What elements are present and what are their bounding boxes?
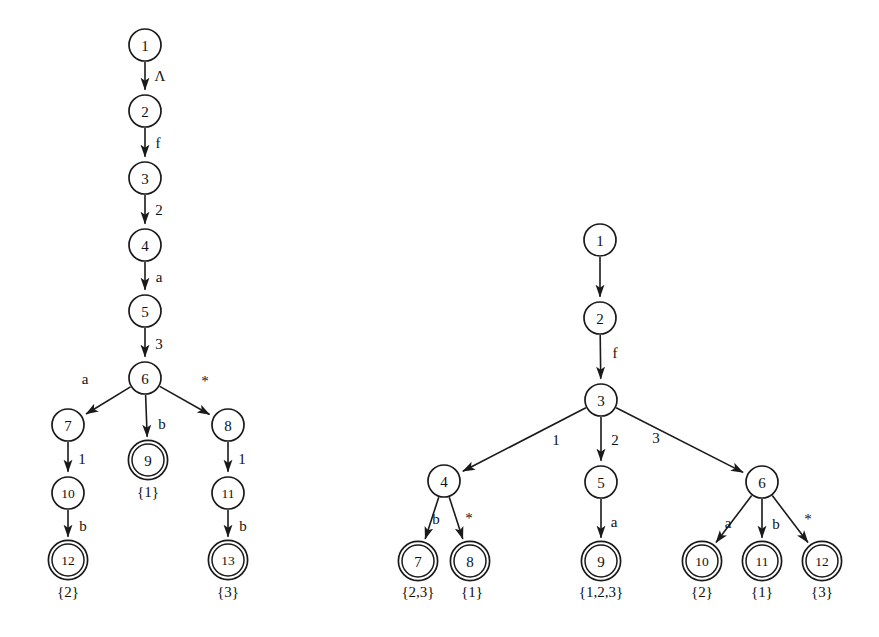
node-label: 7 [64, 418, 72, 434]
node-L2[interactable]: 2 [129, 95, 161, 127]
node-R6[interactable]: 6 [746, 466, 778, 498]
node-L9[interactable]: 9 [128, 440, 167, 479]
edge-label-L8-L11: 1 [238, 451, 246, 467]
node-label: 2 [141, 104, 149, 120]
node-label: 6 [758, 475, 766, 491]
node-L4[interactable]: 4 [129, 229, 161, 261]
edge-R3-to-R4 [463, 408, 586, 471]
node-L1[interactable]: 1 [129, 29, 161, 61]
node-R4[interactable]: 4 [428, 465, 460, 497]
edge-label-L6-L9: b [158, 416, 166, 432]
edge-R4-to-R8 [449, 497, 463, 539]
node-L5[interactable]: 5 [129, 295, 161, 327]
edge-label-L5-L6: 3 [155, 336, 163, 352]
node-label: 11 [222, 486, 235, 501]
edge-label-R6-R12: * [804, 511, 812, 527]
node-label: 7 [414, 554, 422, 570]
edge-R3-to-R6 [616, 408, 743, 473]
node-label: 1 [141, 38, 149, 54]
node-label: 4 [141, 238, 149, 254]
accept-set-R12: {3} [811, 584, 833, 600]
node-label: 9 [144, 453, 152, 469]
node-label: 10 [695, 554, 709, 569]
tree-diagram-svg: 12345678910111213 123456789101112 Λf2a3a… [0, 0, 879, 637]
node-R3[interactable]: 3 [585, 384, 617, 416]
node-label: 2 [596, 311, 604, 327]
edge-label-R4-R7: b [432, 511, 440, 527]
node-R2[interactable]: 2 [584, 302, 616, 334]
left-tree-accept-sets: {2}{1}{3} [57, 484, 239, 600]
edge-label-R6-R11: b [772, 516, 780, 532]
right-tree-accept-sets: {2,3}{1}{1,2,3}{2}{1}{3} [401, 584, 833, 600]
node-label: 10 [61, 486, 75, 501]
edge-R6-to-R10 [716, 496, 752, 543]
node-label: 3 [141, 171, 149, 187]
edge-label-R3-R4: 1 [552, 432, 560, 448]
node-label: 11 [756, 554, 769, 569]
node-L8[interactable]: 8 [212, 409, 244, 441]
node-R11[interactable]: 11 [742, 541, 781, 580]
edge-label-R3-R6: 3 [652, 430, 660, 446]
node-L6[interactable]: 6 [129, 362, 161, 394]
node-label: 8 [466, 554, 474, 570]
node-label: 13 [221, 553, 235, 568]
edge-label-L6-L7: a [82, 371, 89, 387]
node-label: 6 [141, 371, 149, 387]
edge-L6-to-L7 [86, 387, 130, 414]
right-tree-edge-labels: f123b*aab* [432, 345, 812, 532]
node-R9[interactable]: 9 [581, 541, 620, 580]
edge-label-L4-L5: a [156, 269, 163, 285]
node-label: 5 [597, 475, 605, 491]
node-L3[interactable]: 3 [129, 162, 161, 194]
node-R5[interactable]: 5 [585, 466, 617, 498]
accept-set-R8: {1} [461, 584, 483, 600]
figure-canvas: 12345678910111213 123456789101112 Λf2a3a… [0, 0, 879, 637]
edge-R2-to-R3 [600, 335, 601, 379]
edge-L6-to-L9 [146, 395, 148, 437]
node-label: 4 [440, 474, 448, 490]
node-L11[interactable]: 11 [212, 477, 244, 509]
node-label: 5 [141, 304, 149, 320]
accept-set-R10: {2} [691, 584, 713, 600]
edge-label-L10-L12: b [79, 518, 87, 534]
node-label: 12 [61, 553, 75, 568]
edge-label-R2-R3: f [613, 345, 618, 361]
accept-set-L13: {3} [217, 584, 239, 600]
node-R10[interactable]: 10 [682, 541, 721, 580]
edge-label-L3-L4: 2 [155, 202, 163, 218]
edge-L6-to-L8 [160, 386, 210, 414]
edge-label-L2-L3: f [156, 135, 161, 151]
node-R1[interactable]: 1 [584, 224, 616, 256]
node-label: 8 [224, 418, 232, 434]
edge-label-R6-R10: a [725, 515, 732, 531]
edge-label-L7-L10: 1 [78, 451, 86, 467]
accept-set-R9: {1,2,3} [579, 584, 623, 600]
edge-label-R4-R8: * [465, 510, 473, 526]
node-L12[interactable]: 12 [48, 540, 87, 579]
accept-set-L12: {2} [57, 584, 79, 600]
accept-set-R7: {2,3} [401, 584, 434, 600]
accept-set-L9: {1} [137, 484, 159, 500]
node-label: 9 [597, 554, 605, 570]
edge-label-R5-R9: a [611, 514, 618, 530]
edge-label-L11-L13: b [239, 518, 247, 534]
edge-label-R3-R5: 2 [611, 432, 619, 448]
node-R12[interactable]: 12 [802, 541, 841, 580]
node-R8[interactable]: 8 [450, 541, 489, 580]
node-L7[interactable]: 7 [52, 409, 84, 441]
node-label: 12 [815, 554, 829, 569]
node-L10[interactable]: 10 [52, 477, 84, 509]
accept-set-R11: {1} [751, 584, 773, 600]
node-label: 3 [597, 393, 605, 409]
node-R7[interactable]: 7 [398, 541, 437, 580]
node-L13[interactable]: 13 [208, 540, 247, 579]
edge-label-L6-L8: * [201, 373, 209, 389]
edge-label-L1-L2: Λ [155, 68, 166, 84]
node-label: 1 [596, 233, 604, 249]
